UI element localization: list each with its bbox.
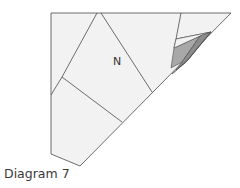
diagram-caption: Diagram 7 (4, 166, 70, 181)
region-label-n: N (113, 55, 121, 68)
fold-diagram: N (0, 0, 240, 188)
